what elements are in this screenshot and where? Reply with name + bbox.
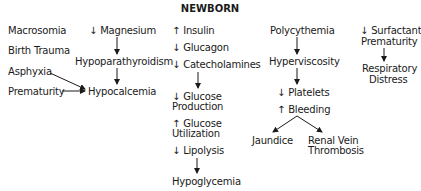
arrow-diagonal-icon (297, 116, 322, 132)
arrow-diagonal-icon (273, 116, 297, 132)
arrow-diagonal-icon (50, 73, 85, 89)
